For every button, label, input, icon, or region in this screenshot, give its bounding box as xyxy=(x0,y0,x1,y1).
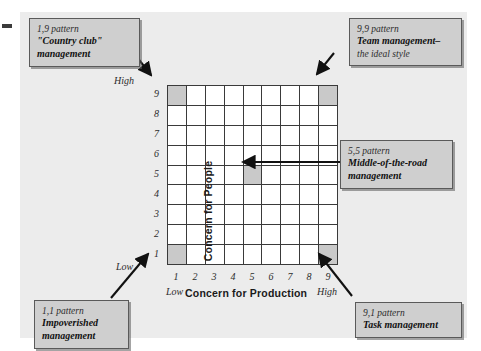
callout-country-club[interactable]: 1,9 pattern "Country club" management xyxy=(29,18,140,67)
diagram-panel: 9 8 7 6 5 4 3 2 1 High Low Concern for P… xyxy=(20,12,467,338)
arrow-task-management xyxy=(319,254,352,296)
callout-country-club-line1: "Country club" xyxy=(37,35,132,48)
callout-impoverished-pattern: 1,1 pattern xyxy=(42,305,121,317)
arrow-team-management xyxy=(317,53,334,74)
callout-impoverished-line1: Impoverished xyxy=(42,317,121,330)
callout-middle-of-the-road-pattern: 5,5 pattern xyxy=(348,145,445,157)
callout-middle-of-the-road-line2: management xyxy=(348,170,445,183)
arrow-impoverished xyxy=(111,254,148,298)
callout-impoverished[interactable]: 1,1 pattern Impoverished management xyxy=(34,300,129,349)
callout-country-club-line2: management xyxy=(37,48,132,61)
callout-impoverished-line2: management xyxy=(42,330,121,343)
callout-middle-of-the-road[interactable]: 5,5 pattern Middle-of-the-road managemen… xyxy=(340,140,453,189)
callout-team-management[interactable]: 9,9 pattern Team management– the ideal s… xyxy=(349,18,462,66)
callout-country-club-pattern: 1,9 pattern xyxy=(37,23,132,35)
callout-team-management-line1: Team management– xyxy=(357,35,454,48)
callout-task-management-line1: Task management xyxy=(363,319,454,332)
callout-team-management-line2: the ideal style xyxy=(357,48,454,60)
callout-task-management-pattern: 9,1 pattern xyxy=(363,307,454,319)
callout-task-management[interactable]: 9,1 pattern Task management xyxy=(355,302,462,338)
callout-team-management-pattern: 9,9 pattern xyxy=(357,23,454,35)
figure-canvas: 9 8 7 6 5 4 3 2 1 High Low Concern for P… xyxy=(0,0,481,351)
callout-middle-of-the-road-line1: Middle-of-the-road xyxy=(348,157,445,170)
